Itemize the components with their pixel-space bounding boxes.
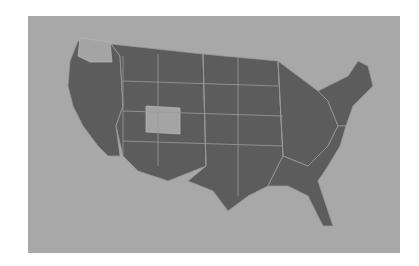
- us-map: [28, 16, 400, 253]
- map-panel: United States map: [28, 16, 400, 253]
- state-colorado[interactable]: [146, 106, 180, 134]
- state-washington[interactable]: [78, 38, 112, 62]
